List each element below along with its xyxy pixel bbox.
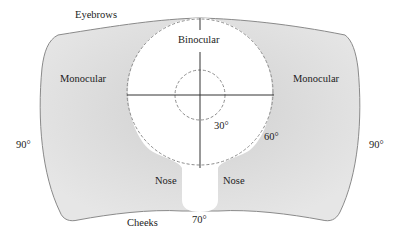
monocular-left-label: Monocular	[60, 74, 106, 85]
ninety-degree-right-label: 90°	[369, 140, 384, 151]
nose-left-label: Nose	[155, 176, 177, 187]
binocular-label: Binocular	[178, 35, 219, 46]
eyebrows-label: Eyebrows	[75, 10, 117, 21]
ninety-degree-left-label: 90°	[16, 140, 31, 151]
seventy-degree-label: 70°	[192, 215, 207, 226]
monocular-right-label: Monocular	[293, 74, 339, 85]
sixty-degree-label: 60°	[264, 132, 279, 143]
visual-field-diagram: Eyebrows Binocular Monocular Monocular 3…	[0, 0, 397, 242]
nose-right-label: Nose	[223, 176, 245, 187]
cheeks-label: Cheeks	[127, 218, 158, 229]
thirty-degree-label: 30°	[214, 121, 229, 132]
